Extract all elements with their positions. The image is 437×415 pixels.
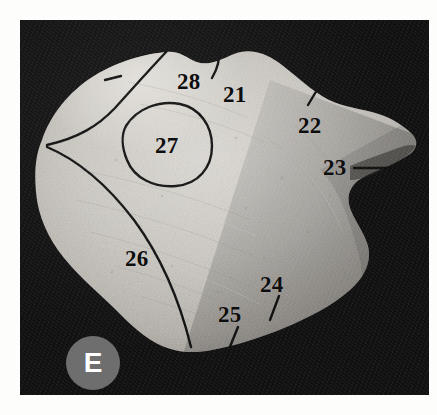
annotation-label-23: 23: [323, 156, 347, 179]
annotation-label-27: 27: [155, 134, 179, 157]
panel-badge: E: [66, 336, 120, 390]
photo-plate: 21 22 23 24 25 26 27 28 E: [20, 20, 429, 395]
annotation-label-26: 26: [125, 247, 149, 270]
figure-root: 21 22 23 24 25 26 27 28 E: [0, 0, 437, 415]
annotation-label-21: 21: [223, 83, 247, 106]
annotation-label-28: 28: [177, 70, 201, 93]
annotation-label-24: 24: [260, 273, 284, 296]
panel-badge-letter: E: [84, 349, 103, 377]
annotation-label-22: 22: [298, 114, 322, 137]
annotation-label-25: 25: [218, 303, 242, 326]
